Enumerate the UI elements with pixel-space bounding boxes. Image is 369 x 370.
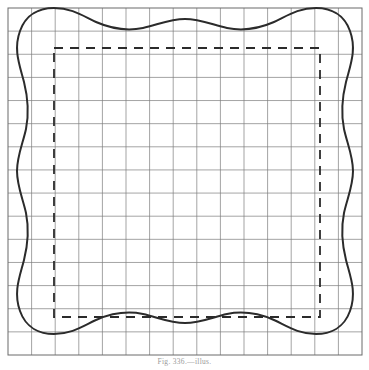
figure-caption: Fig. 336.—illus. xyxy=(0,357,369,366)
technical-figure-svg xyxy=(0,0,369,370)
figure-container: Fig. 336.—illus. xyxy=(0,0,369,370)
